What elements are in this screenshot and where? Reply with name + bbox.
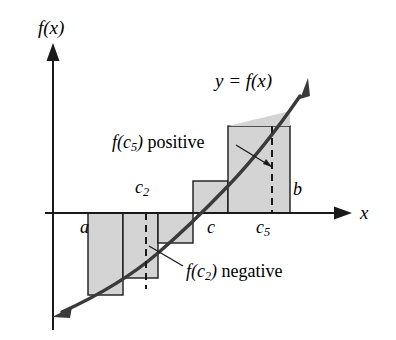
tick-label-b: b	[293, 180, 302, 198]
tick-label-c2-base: c	[135, 177, 143, 197]
annotation-negative-text: negative	[222, 261, 283, 281]
annotation-positive-text: positive	[148, 132, 205, 152]
annotation-positive-math: f(c	[112, 132, 131, 152]
tick-label-c5-sub: 5	[264, 225, 270, 239]
rectangle-5	[228, 126, 290, 213]
tick-label-c5: c5	[256, 218, 270, 236]
curve-arrowhead-right	[300, 78, 310, 99]
curve-arrowhead-left	[52, 307, 72, 318]
figure-canvas	[0, 0, 396, 340]
y-axis-arrowhead	[47, 43, 60, 61]
curve-label: y = f(x)	[215, 71, 272, 90]
annotation-negative: f(c2) negative	[186, 262, 283, 280]
annotation-negative-math: f(c	[186, 261, 205, 281]
rectangle-4	[193, 181, 228, 213]
tick-label-c5-base: c	[256, 217, 264, 237]
riemann-sum-figure: f(x) x y = f(x) a c2 c c5 b f(c5) positi…	[0, 0, 396, 340]
tick-label-c2: c2	[135, 178, 149, 196]
x-axis-label: x	[360, 203, 368, 222]
tick-label-c: c	[207, 218, 215, 236]
y-axis-label: f(x)	[38, 18, 64, 37]
tick-label-a: a	[80, 218, 89, 236]
annotation-positive: f(c5) positive	[112, 133, 205, 151]
tick-label-c2-sub: 2	[143, 185, 149, 199]
x-axis-arrowhead	[334, 207, 352, 220]
negative-rectangles	[88, 213, 193, 295]
